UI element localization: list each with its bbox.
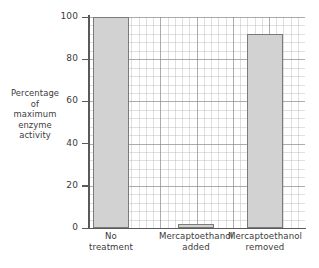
bar-chart-figure: Percentage of maximum enzyme activity 10… [0, 0, 319, 268]
bar-mercaptoethanol-added [178, 224, 214, 228]
x-tick-label-mercaptoethanol-removed-line-2: removed [222, 242, 308, 253]
y-tick-label-60: 60 [52, 95, 78, 105]
x-tick-label-no-treatment-line-1: No [81, 231, 141, 242]
bar-no-treatment [93, 17, 129, 228]
x-tick-label-no-treatment-line-2: treatment [81, 242, 141, 253]
bar-mercaptoethanol-removed [247, 34, 283, 228]
y-axis-label-line-4: enzyme [4, 120, 66, 131]
x-tick-label-no-treatment: No treatment [81, 231, 141, 253]
y-tick-label-40: 40 [52, 138, 78, 148]
y-axis-line [88, 15, 90, 229]
y-tick-label-0: 0 [52, 222, 78, 232]
y-tick-label-80: 80 [52, 53, 78, 63]
x-tick-label-mercaptoethanol-removed: Mercaptoethanol removed [222, 231, 308, 253]
caption-clipped-strip [0, 260, 319, 268]
y-axis-label-line-3: maximum [4, 109, 66, 120]
y-tick-label-20: 20 [52, 180, 78, 190]
y-tick-label-100: 100 [52, 11, 78, 21]
x-tick-label-mercaptoethanol-removed-line-1: Mercaptoethanol [222, 231, 308, 242]
